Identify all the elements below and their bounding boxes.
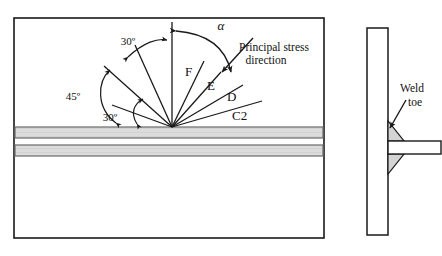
ray-label-C2: C2 — [232, 108, 247, 123]
diagram-svg: α F E D C2 30º 45º 30º Principal stress … — [0, 0, 442, 256]
weld-toe-label-line1: Weld — [400, 82, 424, 94]
ray-label-E: E — [207, 78, 215, 93]
weld-toe-pointer-arrow — [390, 100, 406, 128]
weld-fillet-upper — [388, 121, 404, 141]
weld-fillet-lower — [388, 154, 404, 174]
left-panel-group: α F E D C2 30º 45º 30º Principal stress … — [14, 18, 324, 238]
weld-band-upper — [15, 127, 323, 138]
alpha-label: α — [218, 18, 226, 33]
figure-canvas: α F E D C2 30º 45º 30º Principal stress … — [0, 0, 442, 256]
horizontal-plate — [388, 141, 441, 154]
weld-toe-label-line2: toe — [408, 96, 422, 108]
angle-label-45: 45º — [66, 90, 81, 102]
ray-label-D: D — [227, 89, 236, 104]
principal-stress-label-line2: direction — [246, 54, 287, 66]
angle-label-top-30: 30º — [121, 35, 136, 47]
weld-band-lower — [15, 145, 323, 156]
angle-label-low-30: 30º — [103, 111, 118, 123]
right-panel-group: Weld toe — [367, 28, 441, 235]
vertical-plate — [367, 28, 388, 235]
ray-label-F: F — [185, 64, 192, 79]
principal-stress-label-line1: Principal stress — [239, 41, 309, 54]
